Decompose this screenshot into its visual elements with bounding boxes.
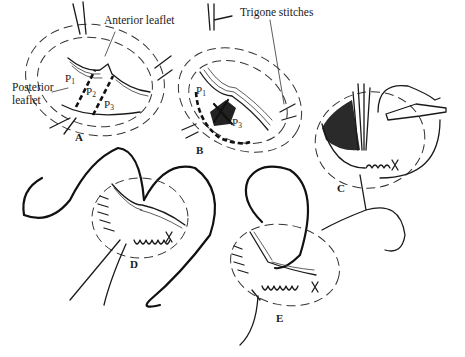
posterior-leaflet-leader: [52, 88, 68, 92]
posterior-leaflet-edge: [62, 105, 140, 115]
trigone-stitches-label: Trigone stitches: [240, 6, 314, 19]
segment-p3-label-a: P3: [104, 98, 114, 112]
suture-knot-d: [166, 232, 172, 242]
segment-p3-label-b: P3: [232, 116, 242, 130]
posterior-leaflet-label-1: Posterior: [12, 81, 54, 93]
annulus-outline-e: [223, 214, 347, 315]
panel-d-label: D: [130, 258, 138, 270]
stitch-top-a: [73, 2, 86, 34]
sutures-bottom-e: [262, 286, 298, 290]
mitral-repair-illustration: Anterior leaflet Posterior leaflet P1 P2…: [0, 0, 465, 357]
suture-tails-d: [70, 240, 126, 305]
segment-p1-label-a: P1: [65, 72, 75, 86]
panel-a: Anterior leaflet Posterior leaflet P1 P2…: [12, 2, 175, 148]
panel-d: D: [23, 148, 215, 307]
leaflet-coaptation-e: [250, 232, 316, 275]
anterior-leaflet-leader: [105, 32, 115, 56]
posterior-leaflet-label-2: leaflet: [12, 94, 42, 106]
segment-p2-label-a: P2: [86, 85, 96, 99]
panel-c: C: [308, 83, 446, 251]
hand-outline-c: [380, 120, 440, 178]
surgeon-finger: [378, 86, 440, 112]
sutures-bottom-d: [134, 240, 170, 244]
sutures-left-e: [232, 246, 248, 273]
stitch-bottom-a: [50, 118, 76, 134]
panel-a-label: A: [75, 131, 83, 143]
panel-e: E: [223, 167, 347, 345]
panel-b: Trigone stitches P1 P3 B: [160, 4, 320, 173]
annulus-outline-b: [160, 27, 320, 173]
suture-loop-left-d: [23, 148, 144, 218]
panel-c-label: C: [337, 182, 345, 194]
sutures-left-d: [98, 196, 114, 231]
suture-tail-e: [240, 296, 258, 345]
trigone-stitches-leader: [270, 20, 284, 104]
sutures-c: [366, 165, 390, 168]
trigone-stitch-top-b: [208, 4, 232, 30]
panel-b-label: B: [196, 144, 204, 156]
suture-knot-c: [392, 160, 398, 170]
panel-e-label: E: [276, 312, 283, 324]
suture-knot-e: [312, 282, 318, 292]
trigone-stitch-right-b: [280, 104, 296, 120]
needle-holder: [386, 104, 446, 120]
segment-p1-label-b: P1: [196, 84, 206, 98]
suture-loop-right-d: [144, 167, 215, 307]
anterior-leaflet-label: Anterior leaflet: [104, 14, 175, 26]
surgeon-hand-lower: [322, 175, 405, 251]
stitch-right-a: [155, 56, 172, 80]
anterior-leaflet-edge: [68, 58, 150, 92]
annulus-outline-a: [15, 12, 175, 149]
suture-loop-e: [246, 167, 308, 269]
